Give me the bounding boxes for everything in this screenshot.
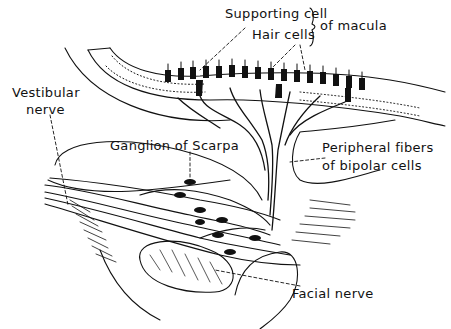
label-ganglion-of-scarpa: Ganglion of Scarpa — [110, 138, 239, 153]
diagram-canvas: Supporting cell Hair cells of macula Ves… — [0, 0, 451, 329]
label-hair-cells: Hair cells — [252, 27, 315, 42]
hair-cells — [165, 65, 365, 102]
label-supporting-cell: Supporting cell — [225, 6, 328, 21]
label-vestibular-nerve-2: nerve — [26, 102, 65, 117]
label-peripheral-fibers-2: of bipolar cells — [322, 158, 422, 173]
label-peripheral-fibers-1: Peripheral fibers — [322, 140, 434, 155]
label-of-macula: of macula — [320, 18, 387, 33]
hair-cell-tufts — [168, 59, 362, 78]
macula-epithelium — [65, 48, 445, 126]
label-facial-nerve: Facial nerve — [292, 286, 374, 301]
facial-nerve — [140, 241, 234, 292]
nerve-bundle — [45, 178, 300, 265]
label-vestibular-nerve-1: Vestibular — [12, 85, 80, 100]
